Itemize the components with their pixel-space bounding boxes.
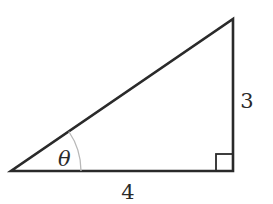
right-angle-marker — [216, 154, 233, 171]
triangle-diagram: θ 4 3 — [0, 0, 273, 204]
angle-label: θ — [58, 147, 71, 171]
triangle — [11, 19, 233, 171]
adjacent-side-label: 4 — [121, 180, 134, 204]
opposite-side-label: 3 — [240, 89, 253, 113]
